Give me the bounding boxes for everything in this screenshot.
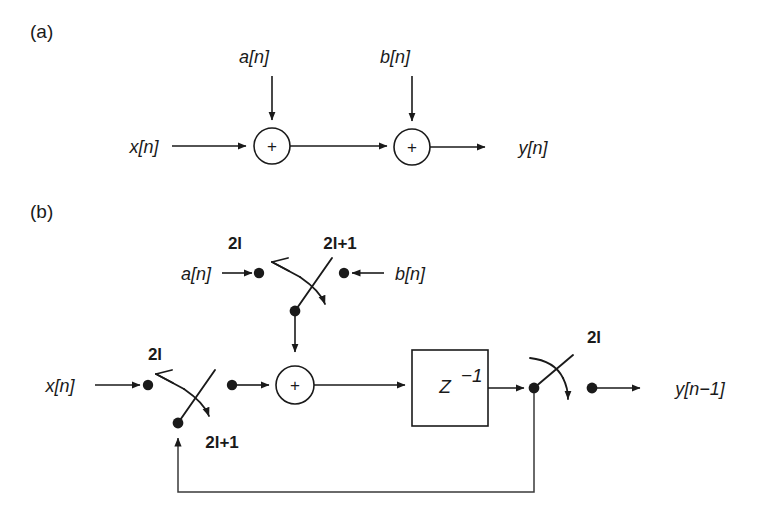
panel-b-x-switch-throw-arrow xyxy=(184,389,209,416)
panel-b-a-input-label: a[n] xyxy=(181,264,212,284)
panel-b-output-switch-throw-arrow xyxy=(563,378,568,399)
panel-b-x-contact-dot xyxy=(143,380,153,390)
panel-b-x-branch-phase-label: 2l xyxy=(148,345,162,364)
panel-b-adder-symbol: + xyxy=(290,376,300,395)
panel-a-a-input-label: a[n] xyxy=(239,47,270,67)
panel-b-x-switch-barb-upper xyxy=(156,370,172,374)
panel-b-feedback-phase-label: 2l+1 xyxy=(205,433,239,452)
figure-canvas: (a) a[n] b[n] x[n] + + y[n] (b) xyxy=(0,0,763,520)
panel-b-b-contact-dot xyxy=(339,268,349,278)
panel-a-label: (a) xyxy=(30,21,53,42)
panel-b-x-switch-barb-lower xyxy=(156,374,173,383)
figure-root: (a) a[n] b[n] x[n] + + y[n] (b) xyxy=(0,0,763,520)
panel-b-output-contact-dot xyxy=(587,383,598,394)
panel-a: (a) a[n] b[n] x[n] + + y[n] xyxy=(30,21,549,165)
panel-b-delay-block-exponent: −1 xyxy=(461,365,483,386)
panel-b-ab-switch-barb-upper xyxy=(272,258,288,262)
panel-b-adder-input-node xyxy=(227,380,237,390)
panel-b-a-branch-phase-label: 2l xyxy=(228,234,242,253)
panel-a-adder-2-symbol: + xyxy=(407,138,417,157)
panel-a-y-output-label: y[n] xyxy=(516,138,548,158)
panel-b-output-phase-label: 2l xyxy=(587,328,601,347)
panel-b: (b) 2l a[n] 2l+1 b[n] 2l x[n] xyxy=(30,201,726,492)
panel-b-x-input-label: x[n] xyxy=(44,376,75,396)
panel-b-b-branch-phase-label: 2l+1 xyxy=(323,234,357,253)
panel-b-label: (b) xyxy=(30,201,53,222)
panel-b-delay-block-label: Z xyxy=(438,376,452,397)
panel-b-a-contact-dot xyxy=(254,268,264,278)
panel-a-adder-1-symbol: + xyxy=(267,137,277,156)
panel-a-x-input-label: x[n] xyxy=(128,137,159,157)
panel-b-y-output-label: y[n−1] xyxy=(673,379,726,399)
panel-b-ab-switch-arm[interactable] xyxy=(295,258,332,311)
panel-b-b-input-label: b[n] xyxy=(395,264,426,284)
panel-a-b-input-label: b[n] xyxy=(380,47,411,67)
panel-b-ab-switch-barb-lower xyxy=(272,262,289,271)
